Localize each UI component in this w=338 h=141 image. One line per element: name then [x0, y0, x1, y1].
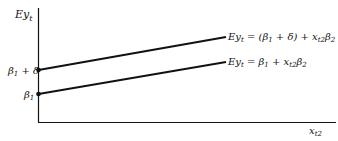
regression-diagram: Eyt xt2 β1 + δ β1 Eyt = (β1 + δ) + xt2β2… — [0, 0, 338, 141]
upper-regression-line — [39, 37, 227, 70]
lower-regression-line — [39, 62, 227, 94]
upper-line-equation: Eyt = (β1 + δ) + xt2β2 — [227, 31, 336, 44]
y-axis-label: Eyt — [14, 8, 33, 23]
x-axis-label: xt2 — [309, 125, 322, 138]
lower-line-equation: Eyt = β1 + xt2β2 — [227, 56, 307, 69]
tick-label-beta1: β1 — [23, 89, 34, 102]
tick-label-beta1-plus-delta: β1 + δ — [7, 65, 39, 78]
lower-intercept-dot — [36, 92, 41, 97]
